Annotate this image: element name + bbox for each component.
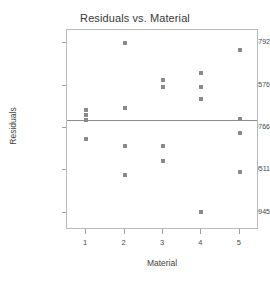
data-point: [238, 117, 242, 121]
data-point: [84, 113, 88, 117]
data-point: [161, 159, 165, 163]
x-tick-mark: [239, 229, 240, 234]
data-point: [238, 170, 242, 174]
x-tick-label: 4: [190, 238, 210, 247]
x-axis-label: Material: [66, 258, 258, 268]
x-tick-mark: [85, 229, 86, 234]
data-point: [161, 85, 165, 89]
data-point: [199, 85, 203, 89]
residual-plot-figure: Residuals vs. Material Residuals 1.64792…: [0, 0, 270, 283]
data-point: [123, 41, 127, 45]
y-axis-label: Residuals: [8, 86, 18, 166]
data-point: [161, 78, 165, 82]
x-tick-label: 3: [152, 238, 172, 247]
x-tick-label: 2: [114, 238, 134, 247]
zero-reference-line: [67, 120, 257, 121]
data-point: [84, 118, 88, 122]
data-point: [84, 108, 88, 112]
data-point: [123, 144, 127, 148]
data-point: [123, 106, 127, 110]
plot-area: [67, 30, 257, 228]
chart-title: Residuals vs. Material: [0, 12, 270, 24]
x-tick-mark: [124, 229, 125, 234]
x-tick-mark: [200, 229, 201, 234]
x-tick-label: 1: [75, 238, 95, 247]
data-point: [199, 71, 203, 75]
data-point: [199, 97, 203, 101]
data-point: [161, 144, 165, 148]
x-tick-label: 5: [229, 238, 249, 247]
x-tick-mark: [162, 229, 163, 234]
data-point: [199, 210, 203, 214]
data-point: [238, 131, 242, 135]
data-point: [123, 173, 127, 177]
data-point: [238, 48, 242, 52]
data-point: [84, 137, 88, 141]
plot-frame: [66, 29, 258, 229]
